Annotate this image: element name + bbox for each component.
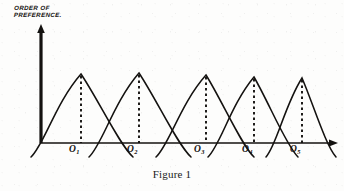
axis-tick-label-o2: O2 [127, 145, 137, 155]
tick-label-subscript: 3 [201, 148, 204, 155]
preference-curve [31, 74, 133, 157]
tick-label-subscript: 4 [249, 148, 252, 155]
preference-curve [156, 75, 254, 157]
x-axis-arrowhead [329, 139, 338, 146]
preference-curve [89, 73, 191, 157]
figure-caption: Figure 1 [0, 168, 344, 180]
tick-label-base: O [242, 144, 249, 154]
figure-1-container: ORDER OF PREFERENCE. O1O2O3O4O5 Figure 1 [0, 0, 344, 191]
peak-droplines-group [81, 75, 302, 143]
preference-curve [266, 78, 336, 157]
tick-label-base: O [194, 144, 201, 154]
axis-tick-label-o1: O1 [69, 145, 79, 155]
tick-label-subscript: 1 [76, 148, 79, 155]
tick-label-base: O [69, 144, 76, 154]
tick-label-base: O [290, 144, 297, 154]
axis-tick-label-o4: O4 [242, 145, 252, 155]
y-axis [37, 24, 45, 143]
tick-label-subscript: 2 [134, 148, 137, 155]
preference-curves-plot [0, 0, 344, 168]
axis-tick-label-o3: O3 [194, 145, 204, 155]
y-axis-arrowhead [37, 24, 45, 33]
axis-tick-label-o5: O5 [290, 145, 300, 155]
tick-label-subscript: 5 [297, 148, 300, 155]
tick-label-base: O [127, 144, 134, 154]
